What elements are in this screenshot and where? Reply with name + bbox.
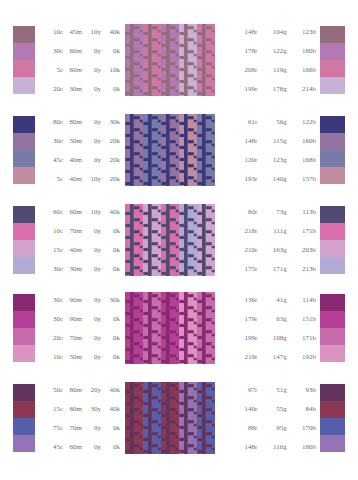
color-swatch[interactable] bbox=[13, 150, 35, 167]
cmyk-value: 5c bbox=[44, 169, 63, 188]
pattern-preview[interactable] bbox=[125, 204, 215, 276]
cmyk-value: 20k bbox=[101, 131, 120, 150]
color-swatch[interactable] bbox=[320, 435, 345, 452]
rgb-value: 148r bbox=[228, 22, 257, 41]
color-swatch[interactable] bbox=[320, 328, 345, 345]
cmyk-row: 30c90m0y30k bbox=[44, 290, 120, 309]
rgb-value: 73g bbox=[257, 202, 286, 221]
cmyk-value: 40k bbox=[101, 399, 120, 418]
color-swatch[interactable] bbox=[13, 116, 35, 133]
rgb-row: 218r111g171b bbox=[228, 221, 316, 240]
swatch-stack-left[interactable] bbox=[13, 384, 35, 452]
color-swatch[interactable] bbox=[320, 43, 345, 60]
cmyk-value: 90m bbox=[63, 309, 82, 328]
rgb-value: 108g bbox=[257, 328, 286, 347]
color-swatch[interactable] bbox=[320, 240, 345, 257]
color-swatch[interactable] bbox=[13, 206, 35, 223]
color-swatch[interactable] bbox=[13, 77, 35, 94]
cmyk-row: 30c50m0y20k bbox=[44, 131, 120, 150]
palette-row: 80c80m0y30k30c50m0y20k45c40m0y20k5c40m10… bbox=[0, 112, 358, 190]
color-swatch[interactable] bbox=[13, 43, 35, 60]
color-swatch[interactable] bbox=[320, 223, 345, 240]
color-swatch[interactable] bbox=[13, 223, 35, 240]
color-swatch[interactable] bbox=[13, 311, 35, 328]
cmyk-value: 10c bbox=[44, 22, 63, 41]
color-swatch[interactable] bbox=[320, 401, 345, 418]
color-swatch[interactable] bbox=[13, 133, 35, 150]
rgb-value: 163g bbox=[257, 240, 286, 259]
cmyk-row: 30c30m0y0k bbox=[44, 259, 120, 278]
color-swatch[interactable] bbox=[320, 294, 345, 311]
rgb-row: 88r95g170b bbox=[228, 418, 316, 437]
palette-row: 60c60m10y40k10c70m0y0k15c40m0y0k30c30m0y… bbox=[0, 202, 358, 280]
color-swatch[interactable] bbox=[320, 384, 345, 401]
rgb-value: 210r bbox=[228, 240, 257, 259]
rgb-value: 104g bbox=[257, 22, 286, 41]
color-swatch[interactable] bbox=[320, 133, 345, 150]
rgb-row: 179r63g151b bbox=[228, 309, 316, 328]
color-swatch[interactable] bbox=[13, 401, 35, 418]
color-swatch[interactable] bbox=[13, 418, 35, 435]
rgb-value: 157b bbox=[287, 169, 316, 188]
cmyk-value: 20k bbox=[101, 169, 120, 188]
color-swatch[interactable] bbox=[320, 77, 345, 94]
color-swatch[interactable] bbox=[13, 345, 35, 362]
color-swatch[interactable] bbox=[320, 60, 345, 77]
cmyk-value: 40m bbox=[63, 240, 82, 259]
rgb-value: 171b bbox=[287, 221, 316, 240]
rgb-value: 148r bbox=[228, 437, 257, 456]
cmyk-value: 0k bbox=[101, 259, 120, 278]
swatch-stack-right[interactable] bbox=[320, 384, 345, 452]
color-swatch[interactable] bbox=[320, 167, 345, 184]
cmyk-value: 0k bbox=[101, 418, 120, 437]
swatch-stack-left[interactable] bbox=[13, 294, 35, 362]
cmyk-value: 40m bbox=[63, 169, 82, 188]
color-swatch[interactable] bbox=[13, 328, 35, 345]
swatch-stack-right[interactable] bbox=[320, 206, 345, 274]
swatch-stack-left[interactable] bbox=[13, 116, 35, 184]
rgb-value: 199r bbox=[228, 328, 257, 347]
color-swatch[interactable] bbox=[13, 435, 35, 452]
color-swatch[interactable] bbox=[13, 60, 35, 77]
swatch-stack-left[interactable] bbox=[13, 26, 35, 94]
rgb-value: 219r bbox=[228, 347, 257, 366]
cmyk-value: 45c bbox=[44, 437, 63, 456]
color-swatch[interactable] bbox=[320, 116, 345, 133]
color-swatch[interactable] bbox=[320, 150, 345, 167]
color-swatch[interactable] bbox=[13, 167, 35, 184]
color-swatch[interactable] bbox=[320, 206, 345, 223]
rgb-value: 175r bbox=[228, 259, 257, 278]
pattern-preview[interactable] bbox=[125, 382, 215, 454]
rgb-value: 148r bbox=[228, 131, 257, 150]
pattern-preview[interactable] bbox=[125, 114, 215, 186]
color-swatch[interactable] bbox=[320, 26, 345, 43]
cmyk-value: 0k bbox=[101, 309, 120, 328]
color-swatch[interactable] bbox=[13, 26, 35, 43]
rgb-value: 140g bbox=[257, 169, 286, 188]
swatch-stack-right[interactable] bbox=[320, 116, 345, 184]
color-swatch[interactable] bbox=[13, 384, 35, 401]
color-swatch[interactable] bbox=[13, 240, 35, 257]
rgb-row: 219r147g192b bbox=[228, 347, 316, 366]
pattern-preview[interactable] bbox=[125, 24, 215, 96]
cmyk-value: 50m bbox=[63, 131, 82, 150]
rgb-value: 218r bbox=[228, 221, 257, 240]
color-swatch[interactable] bbox=[13, 257, 35, 274]
color-swatch[interactable] bbox=[320, 311, 345, 328]
cmyk-value: 5c bbox=[44, 60, 63, 79]
color-swatch[interactable] bbox=[320, 257, 345, 274]
swatch-stack-right[interactable] bbox=[320, 294, 345, 362]
cmyk-row: 50c80m20y40k bbox=[44, 380, 120, 399]
pattern-preview[interactable] bbox=[125, 292, 215, 364]
swatch-stack-right[interactable] bbox=[320, 26, 345, 94]
cmyk-value: 40k bbox=[101, 202, 120, 221]
rgb-value: 123b bbox=[287, 22, 316, 41]
color-swatch[interactable] bbox=[320, 345, 345, 362]
cmyk-value: 0y bbox=[82, 221, 101, 240]
cmyk-value: 0k bbox=[101, 221, 120, 240]
color-swatch[interactable] bbox=[13, 294, 35, 311]
color-swatch[interactable] bbox=[320, 418, 345, 435]
rgb-value: 193r bbox=[228, 169, 257, 188]
swatch-stack-left[interactable] bbox=[13, 206, 35, 274]
rgb-value: 136r bbox=[228, 290, 257, 309]
